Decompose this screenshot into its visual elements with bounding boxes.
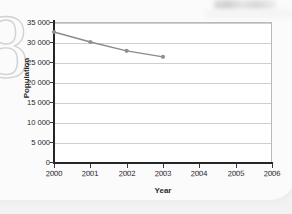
x-tick-label: 2001 [82, 169, 99, 178]
y-tick-label: 10 000 [27, 118, 50, 127]
y-tick-mark [50, 102, 54, 103]
scanned-page: 8 Population 05 00010 00015 00020 00025 … [0, 0, 292, 214]
x-tick-mark [127, 164, 128, 168]
x-axis-title: Year [54, 186, 272, 195]
x-tick-label: 2000 [46, 169, 63, 178]
x-tick-label: 2003 [155, 169, 172, 178]
x-tick-mark [236, 164, 237, 168]
x-tick-label: 2002 [118, 169, 135, 178]
x-tick-mark [272, 164, 273, 168]
series-line [54, 32, 163, 57]
y-tick-mark [50, 162, 54, 163]
y-tick-label: 35 000 [27, 18, 50, 27]
x-tick-mark [163, 164, 164, 168]
x-tick-mark [54, 164, 55, 168]
x-tick-mark [199, 164, 200, 168]
y-tick-mark [50, 62, 54, 63]
y-tick-label: 20 000 [27, 78, 50, 87]
y-tick-label: 5 000 [31, 138, 50, 147]
y-tick-mark [50, 142, 54, 143]
data-point-marker [125, 49, 129, 53]
y-tick-mark [50, 42, 54, 43]
x-tick-label: 2004 [191, 169, 208, 178]
y-tick-label: 25 000 [27, 58, 50, 67]
data-point-marker [161, 55, 165, 59]
y-tick-mark [50, 122, 54, 123]
x-tick-mark [90, 164, 91, 168]
y-axis-tick-labels: 05 00010 00015 00020 00025 00030 00035 0… [14, 16, 50, 162]
data-series-layer [54, 22, 272, 162]
x-tick-label: 2005 [227, 169, 244, 178]
y-tick-label: 15 000 [27, 98, 50, 107]
data-point-marker [52, 30, 56, 34]
x-tick-label: 2006 [264, 169, 281, 178]
y-tick-label: 30 000 [27, 38, 50, 47]
population-line-chart: Population 05 00010 00015 00020 00025 00… [10, 16, 284, 206]
y-tick-mark [50, 22, 54, 23]
y-tick-mark [50, 82, 54, 83]
data-point-marker [88, 40, 92, 44]
